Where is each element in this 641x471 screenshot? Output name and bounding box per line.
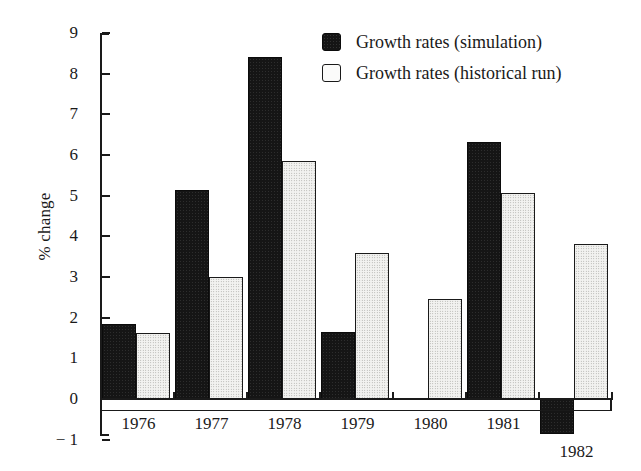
x-axis-tick-label: 1981 <box>467 415 540 432</box>
light-outlined-square-icon <box>322 64 341 82</box>
y-axis-tick-label: − 1 <box>0 431 78 448</box>
x-axis-tick-label: 1982 <box>540 443 613 460</box>
bar-simulation <box>540 399 574 434</box>
y-axis-tick-label: 5 <box>0 187 78 204</box>
x-axis-tick <box>538 392 540 400</box>
x-axis-tick-label: 1978 <box>248 415 321 432</box>
bar-simulation <box>175 190 209 399</box>
y-axis-tick-label: 1 <box>0 349 78 366</box>
legend-item-label: Growth rates (historical run) <box>356 64 561 82</box>
bar-historical-run <box>428 299 462 399</box>
x-axis-tick <box>611 392 613 400</box>
y-axis-tick-label: 9 <box>0 24 78 41</box>
y-axis-tick-label: 2 <box>0 309 78 326</box>
bar-simulation <box>102 324 136 399</box>
dark-filled-square-icon <box>322 33 341 51</box>
bar-simulation <box>467 142 501 399</box>
bar-historical-run <box>574 244 608 399</box>
y-axis-tick-label: 3 <box>0 268 78 285</box>
x-axis-tick <box>173 392 175 400</box>
bar-historical-run <box>355 253 389 399</box>
bar-historical-run <box>501 193 535 399</box>
y-axis-tick-label: 8 <box>0 65 78 82</box>
y-axis-tick-label: 6 <box>0 146 78 163</box>
x-axis-tick-label: 1979 <box>321 415 394 432</box>
y-axis-tick-label: 4 <box>0 227 78 244</box>
x-axis-zero-line <box>100 398 612 400</box>
legend-item: Growth rates (historical run) <box>322 57 622 88</box>
legend: Growth rates (simulation)Growth rates (h… <box>322 26 622 88</box>
legend-item-label: Growth rates (simulation) <box>356 33 542 51</box>
x-axis-tick <box>100 399 102 410</box>
y-axis-tick-label: 7 <box>0 105 78 122</box>
x-axis-tick-label: 1976 <box>102 415 175 432</box>
bar-historical-run <box>282 161 316 399</box>
x-axis-baseline <box>100 410 612 411</box>
x-axis-tick <box>246 392 248 400</box>
x-axis-tick <box>392 392 394 400</box>
plot-area <box>101 33 611 435</box>
y-axis-tick-label: 0 <box>0 390 78 407</box>
x-axis-tick-label: 1977 <box>175 415 248 432</box>
bar-historical-run <box>136 333 170 399</box>
legend-item: Growth rates (simulation) <box>322 26 622 57</box>
bar-simulation <box>248 57 282 399</box>
x-axis-tick <box>319 392 321 400</box>
bar-chart-figure: % change 9876543210− 1 19761977197819791… <box>0 0 641 471</box>
y-axis-tick <box>102 439 110 441</box>
x-axis-tick-label: 1980 <box>394 415 467 432</box>
bar-simulation <box>321 332 355 399</box>
x-axis-tick <box>465 392 467 400</box>
bar-historical-run <box>209 277 243 399</box>
